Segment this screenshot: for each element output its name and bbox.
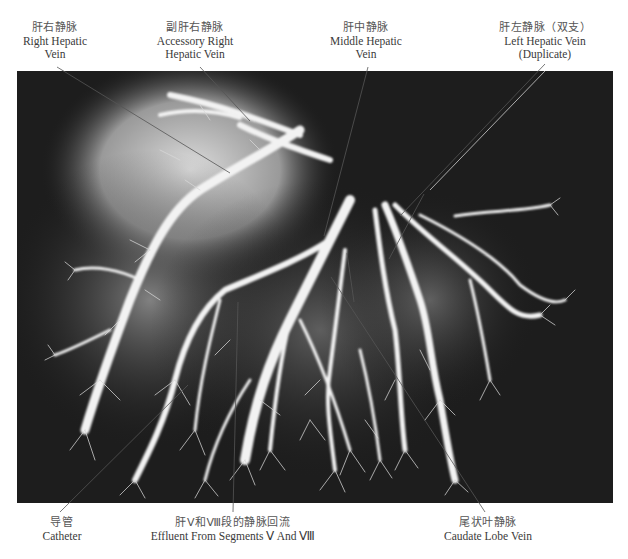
label-accessory-right-hepatic-vein: 副肝右静脉 Accessory Right Hepatic Vein — [157, 21, 233, 62]
label-catheter: 导管 Catheter — [43, 516, 82, 543]
hepatic-vein-figure: 肝右静脉 Right Hepatic Vein 副肝右静脉 Accessory … — [0, 0, 628, 559]
label-caudate-lobe-vein: 尾状叶静脉 Caudate Lobe Vein — [444, 516, 532, 543]
angiogram-image — [0, 0, 628, 559]
label-middle-hepatic-vein: 肝中静脉 Middle Hepatic Vein — [330, 21, 402, 62]
label-left-hepatic-vein: 肝左静脉（双支） Left Hepatic Vein (Duplicate) — [499, 21, 591, 62]
label-right-hepatic-vein: 肝右静脉 Right Hepatic Vein — [23, 21, 87, 62]
label-effluent-segments: 肝Ⅴ和Ⅷ段的静脉回流 Effluent From Segments Ⅴ And … — [151, 516, 316, 543]
